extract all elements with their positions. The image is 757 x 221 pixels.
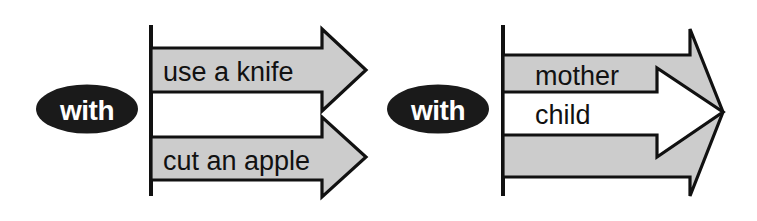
left-band-label-lower: cut an apple: [163, 146, 310, 176]
diagram-svg: use a knife cut an apple with mother chi…: [0, 0, 757, 221]
group-right: mother child with: [387, 25, 723, 196]
right-band-label-middle: child: [535, 100, 591, 130]
left-relation-label: with: [59, 95, 114, 126]
left-band-label-upper: use a knife: [163, 57, 294, 87]
group-left: use a knife cut an apple with: [36, 25, 366, 197]
diagram-canvas: use a knife cut an apple with mother chi…: [0, 0, 757, 221]
right-band-label-upper: mother: [535, 61, 619, 91]
right-relation-label: with: [410, 95, 465, 126]
